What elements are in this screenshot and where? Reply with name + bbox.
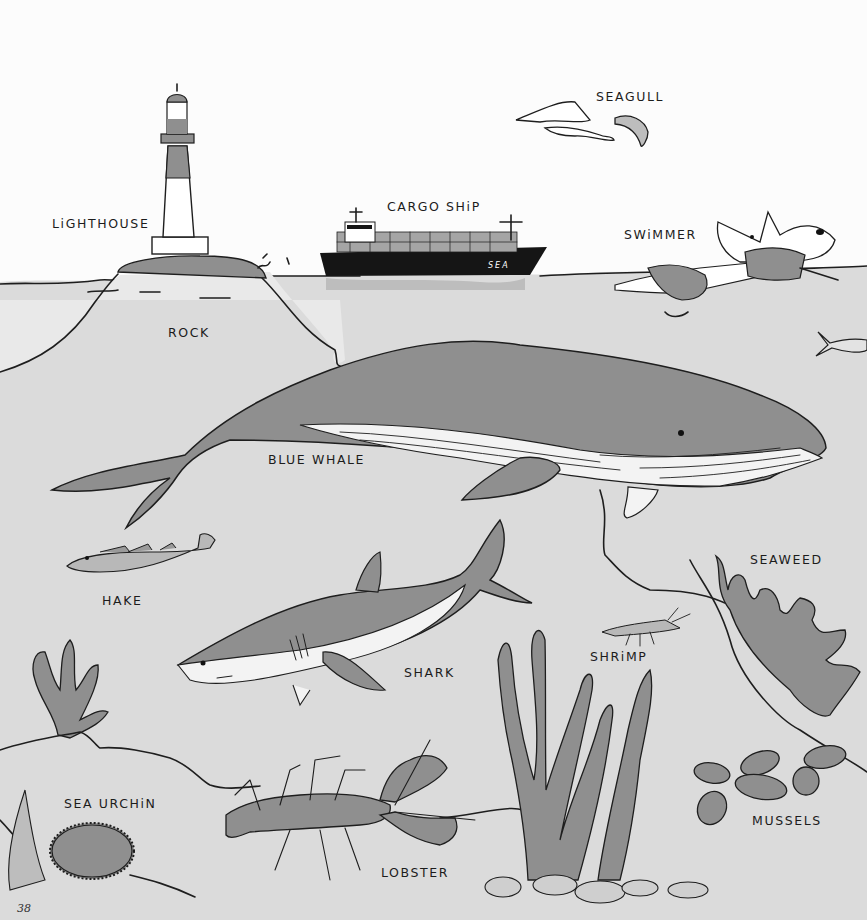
- label-sea-urchin: SEA URCHiN: [64, 798, 157, 811]
- sea-scene: SEA: [0, 0, 867, 920]
- label-shark: SHARK: [404, 667, 455, 680]
- page-number: 38: [17, 902, 31, 915]
- label-cargo-ship: CARGO SHiP: [387, 201, 481, 214]
- label-lobster: LOBSTER: [381, 867, 449, 880]
- label-seagull: SEAGULL: [596, 91, 664, 104]
- label-swimmer: SWiMMER: [624, 229, 697, 242]
- label-mussels: MUSSELS: [752, 815, 822, 828]
- label-shrimp: SHRiMP: [590, 651, 647, 664]
- label-hake: HAKE: [102, 595, 142, 608]
- ship-hull-text: SEA: [488, 261, 510, 270]
- lighthouse-icon: [152, 84, 289, 268]
- label-blue-whale: BLUE WHALE: [268, 454, 365, 467]
- illustrated-sea-page: SEA: [0, 0, 867, 920]
- seagull-icon: [516, 102, 648, 147]
- label-rock: ROCK: [168, 327, 210, 340]
- label-seaweed: SEAWEED: [750, 554, 823, 567]
- label-lighthouse: LiGHTHOUSE: [52, 218, 149, 231]
